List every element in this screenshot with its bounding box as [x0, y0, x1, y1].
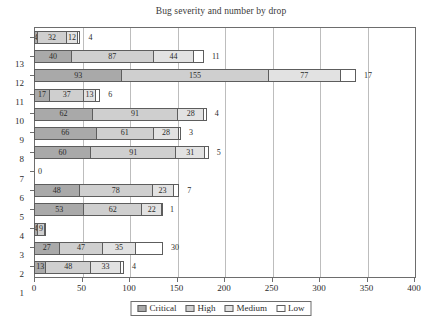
bar-segment-medium[interactable]: 35: [102, 242, 135, 255]
y-axis-tick: [30, 152, 34, 153]
x-axis-label: 400: [407, 284, 421, 293]
legend-swatch-icon: [225, 305, 234, 312]
bar-segment-critical[interactable]: 27: [34, 242, 60, 255]
bar-value-label: 17: [364, 72, 372, 80]
bar-segment-low[interactable]: [178, 127, 181, 140]
y-axis-tick: [30, 247, 34, 248]
legend-swatch-icon: [138, 305, 147, 312]
bar-segment-critical[interactable]: 66: [34, 127, 97, 140]
y-axis-tick: [30, 228, 34, 229]
x-axis-label: 50: [77, 284, 86, 293]
y-axis-label: 5: [0, 212, 24, 221]
x-axis-tick: [414, 278, 415, 282]
bar-value-label: 11: [212, 53, 220, 61]
bar-segment-high[interactable]: 37: [49, 89, 84, 102]
bar-segment-critical[interactable]: 60: [34, 146, 91, 159]
bar-segment-medium[interactable]: 1: [44, 223, 46, 236]
bar-segment-low[interactable]: [193, 50, 203, 63]
bar-segment-medium[interactable]: 31: [175, 146, 204, 159]
bar-segment-medium[interactable]: 23: [152, 184, 174, 197]
legend-label: Critical: [150, 304, 177, 313]
x-axis-label: 150: [170, 284, 184, 293]
table-row[interactable]: 4878237: [35, 184, 415, 197]
y-axis-label: 3: [0, 251, 24, 260]
table-row[interactable]: 6661283: [35, 127, 415, 140]
bar-segment-high[interactable]: 61: [96, 127, 154, 140]
x-axis-tick: [82, 278, 83, 282]
bar-segment-low[interactable]: [161, 203, 163, 216]
x-axis-tick: [319, 278, 320, 282]
bar-segment-high[interactable]: 32: [37, 31, 67, 44]
x-axis-tick: [367, 278, 368, 282]
table-row[interactable]: 0: [35, 165, 415, 178]
bar-segment-critical[interactable]: 93: [34, 69, 122, 82]
y-axis-label: 12: [0, 78, 24, 87]
y-axis: 13121110987654321: [0, 27, 30, 278]
bar-value-label: 4: [88, 34, 92, 42]
bar-segment-low[interactable]: [95, 89, 101, 102]
y-axis-label: 6: [0, 193, 24, 202]
table-row[interactable]: 491: [35, 223, 415, 236]
legend-item-low[interactable]: Low: [276, 304, 305, 313]
bar-segment-low[interactable]: [340, 69, 356, 82]
table-row[interactable]: 432124: [35, 31, 415, 44]
x-axis-label: 200: [217, 284, 231, 293]
bar-chart: Bug severity and number by drop 43212440…: [0, 0, 442, 333]
bar-segment-medium[interactable]: 22: [141, 203, 162, 216]
bar-rows: 4321244087441193155771717371366291284666…: [35, 28, 415, 277]
bar-segment-high[interactable]: 47: [59, 242, 104, 255]
bar-segment-low[interactable]: [173, 184, 180, 197]
legend-item-medium[interactable]: Medium: [225, 304, 268, 313]
bar-segment-critical[interactable]: 17: [34, 89, 50, 102]
bar-segment-critical[interactable]: 62: [34, 108, 93, 121]
bar-segment-low[interactable]: [77, 31, 81, 44]
table-row[interactable]: 6291284: [35, 108, 415, 121]
bar-segment-critical[interactable]: 40: [34, 50, 72, 63]
bar-value-label: 4: [132, 263, 136, 271]
x-axis-label: 350: [360, 284, 374, 293]
table-row[interactable]: 5362221: [35, 203, 415, 216]
bar-segment-medium[interactable]: 44: [153, 50, 195, 63]
y-axis-tick: [30, 75, 34, 76]
y-axis-label: 13: [0, 59, 24, 68]
bar-segment-critical[interactable]: 48: [34, 184, 80, 197]
y-axis-tick: [30, 94, 34, 95]
bar-segment-critical[interactable]: 53: [34, 203, 84, 216]
y-axis-label: 9: [0, 136, 24, 145]
bar-segment-low[interactable]: [204, 146, 209, 159]
bar-value-label: 0: [38, 168, 42, 176]
y-axis-tick: [30, 209, 34, 210]
bar-value-label: 1: [170, 206, 174, 214]
bar-value-label: 5: [217, 149, 221, 157]
bar-segment-low[interactable]: [120, 261, 124, 274]
bar-segment-medium[interactable]: 77: [268, 69, 341, 82]
bar-segment-high[interactable]: 62: [83, 203, 142, 216]
legend-item-critical[interactable]: Critical: [138, 304, 177, 313]
chart-title: Bug severity and number by drop: [0, 6, 442, 16]
table-row[interactable]: 40874411: [35, 50, 415, 63]
bar-value-label: 6: [108, 91, 112, 99]
table-row[interactable]: 1348334: [35, 261, 415, 274]
bar-segment-high[interactable]: 155: [121, 69, 268, 82]
bar-segment-high[interactable]: 91: [92, 108, 178, 121]
y-axis-tick: [30, 171, 34, 172]
table-row[interactable]: 6091315: [35, 146, 415, 159]
legend-swatch-icon: [276, 305, 285, 312]
bar-segment-low[interactable]: [135, 242, 164, 255]
bar-segment-high[interactable]: 91: [90, 146, 176, 159]
legend-item-high[interactable]: High: [186, 304, 216, 313]
y-axis-tick: [30, 37, 34, 38]
bar-segment-high[interactable]: 78: [79, 184, 153, 197]
bar-segment-low[interactable]: [203, 108, 207, 121]
bar-segment-medium[interactable]: 33: [90, 261, 121, 274]
x-axis-tick: [224, 278, 225, 282]
bar-segment-medium[interactable]: 28: [153, 127, 180, 140]
x-axis-tick: [177, 278, 178, 282]
table-row[interactable]: 931557717: [35, 69, 415, 82]
bar-segment-high[interactable]: 87: [71, 50, 154, 63]
table-row[interactable]: 1737136: [35, 89, 415, 102]
y-axis-label: 7: [0, 174, 24, 183]
bar-segment-medium[interactable]: 28: [177, 108, 204, 121]
bar-segment-high[interactable]: 48: [45, 261, 91, 274]
table-row[interactable]: 27473530: [35, 242, 415, 255]
